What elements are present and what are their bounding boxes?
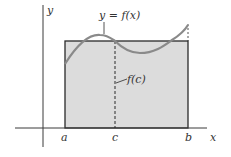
- x-axis-label: x: [210, 132, 216, 143]
- y-axis-label: y: [47, 5, 53, 16]
- curve-label: y = f(x): [99, 10, 140, 21]
- mvt-integral-diagram: y y = f(x) f(c) a c b x: [0, 0, 231, 157]
- height-label: f(c): [127, 74, 146, 85]
- b-label: b: [185, 132, 192, 143]
- c-label: c: [112, 132, 118, 143]
- a-label: a: [61, 132, 68, 143]
